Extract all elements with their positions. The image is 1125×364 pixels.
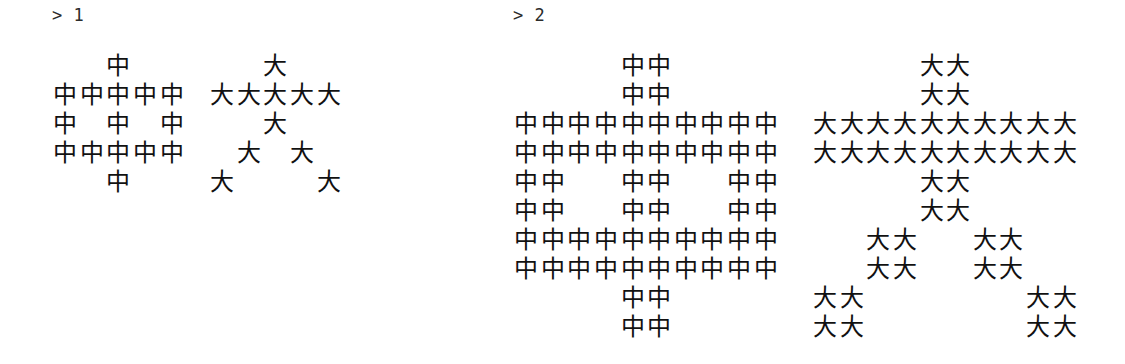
glyph-cell-filled: 大 bbox=[918, 81, 945, 110]
glyph-cell-filled: 大 bbox=[289, 81, 316, 110]
glyph-cell-filled: 大 bbox=[315, 81, 342, 110]
art-row: 中中中中中中中中中中 bbox=[513, 226, 779, 255]
glyph-cell-filled: 中 bbox=[752, 226, 779, 255]
glyph-cell-empty bbox=[236, 168, 263, 197]
glyph-cell-empty bbox=[839, 81, 866, 110]
glyph-cell-filled: 中 bbox=[619, 139, 646, 168]
art-row: 大大大大大大大大大大 bbox=[812, 139, 1078, 168]
figure-da-scale-1: 大 大大大大大 大 大 大 大 大 bbox=[209, 52, 342, 197]
glyph-cell-filled: 中 bbox=[646, 52, 673, 81]
prompt-line-1[interactable]: > 1 bbox=[52, 4, 342, 26]
glyph-cell-empty bbox=[972, 197, 999, 226]
glyph-cell-empty bbox=[566, 197, 593, 226]
glyph-cell-empty bbox=[839, 255, 866, 284]
glyph-cell-filled: 大 bbox=[865, 255, 892, 284]
glyph-cell-filled: 大 bbox=[918, 168, 945, 197]
terminal-output: > 1 中 中中中中中中 中 中中中中中中 中 大 大大大大大 大 大 大 大 … bbox=[0, 0, 1125, 364]
glyph-cell-filled: 大 bbox=[315, 168, 342, 197]
glyph-cell-empty bbox=[209, 139, 236, 168]
glyph-cell-filled: 大 bbox=[865, 110, 892, 139]
glyph-cell-filled: 中 bbox=[132, 81, 159, 110]
glyph-cell-empty bbox=[1051, 81, 1078, 110]
art-row: 大大 bbox=[812, 197, 1078, 226]
glyph-cell-empty bbox=[315, 52, 342, 81]
glyph-cell-filled: 中 bbox=[566, 226, 593, 255]
glyph-cell-empty bbox=[699, 284, 726, 313]
glyph-cell-empty bbox=[673, 284, 700, 313]
glyph-cell-empty bbox=[892, 168, 919, 197]
glyph-cell-filled: 中 bbox=[726, 110, 753, 139]
glyph-cell-empty bbox=[972, 313, 999, 342]
glyph-cell-filled: 中 bbox=[699, 226, 726, 255]
glyph-cell-empty bbox=[236, 110, 263, 139]
glyph-cell-filled: 中 bbox=[158, 110, 185, 139]
prompt-line-2[interactable]: > 2 bbox=[513, 4, 1078, 26]
art-row: 中 bbox=[52, 52, 185, 81]
glyph-cell-filled: 中 bbox=[619, 313, 646, 342]
art-row: 大 bbox=[209, 110, 342, 139]
glyph-cell-empty bbox=[918, 255, 945, 284]
glyph-cell-empty bbox=[699, 81, 726, 110]
glyph-cell-empty bbox=[812, 226, 839, 255]
glyph-cell-filled: 中 bbox=[540, 168, 567, 197]
glyph-cell-empty bbox=[1051, 52, 1078, 81]
glyph-cell-filled: 中 bbox=[52, 139, 79, 168]
glyph-cell-empty bbox=[1025, 81, 1052, 110]
glyph-cell-empty bbox=[540, 284, 567, 313]
glyph-cell-filled: 中 bbox=[752, 255, 779, 284]
glyph-cell-filled: 中 bbox=[513, 255, 540, 284]
glyph-cell-empty bbox=[52, 52, 79, 81]
art-row: 中 bbox=[52, 168, 185, 197]
glyph-cell-empty bbox=[972, 52, 999, 81]
glyph-cell-filled: 大 bbox=[998, 139, 1025, 168]
glyph-cell-empty bbox=[262, 139, 289, 168]
glyph-cell-filled: 中 bbox=[619, 81, 646, 110]
art-row: 中中 中中 中中 bbox=[513, 197, 779, 226]
glyph-cell-empty bbox=[209, 110, 236, 139]
glyph-cell-filled: 中 bbox=[105, 168, 132, 197]
glyph-cell-filled: 大 bbox=[812, 313, 839, 342]
glyph-cell-filled: 大 bbox=[865, 226, 892, 255]
glyph-cell-empty bbox=[132, 52, 159, 81]
glyph-cell-empty bbox=[726, 284, 753, 313]
glyph-cell-empty bbox=[132, 168, 159, 197]
art-row: 大大 bbox=[812, 52, 1078, 81]
glyph-cell-filled: 中 bbox=[540, 255, 567, 284]
glyph-cell-filled: 中 bbox=[79, 139, 106, 168]
glyph-cell-filled: 中 bbox=[752, 139, 779, 168]
glyph-cell-filled: 大 bbox=[812, 284, 839, 313]
glyph-cell-empty bbox=[812, 81, 839, 110]
glyph-cell-empty bbox=[673, 81, 700, 110]
art-row: 大大 大大 bbox=[812, 226, 1078, 255]
glyph-cell-filled: 中 bbox=[646, 313, 673, 342]
glyph-cell-filled: 大 bbox=[998, 226, 1025, 255]
glyph-cell-empty bbox=[593, 197, 620, 226]
repl-block-1: > 1 中 中中中中中中 中 中中中中中中 中 大 大大大大大 大 大 大 大 … bbox=[52, 0, 342, 197]
glyph-cell-filled: 大 bbox=[1051, 110, 1078, 139]
glyph-cell-empty bbox=[865, 197, 892, 226]
art-row: 中中中中中 bbox=[52, 139, 185, 168]
glyph-cell-filled: 大 bbox=[972, 255, 999, 284]
glyph-cell-filled: 中 bbox=[646, 284, 673, 313]
glyph-cell-filled: 中 bbox=[752, 197, 779, 226]
glyph-cell-empty bbox=[673, 313, 700, 342]
glyph-cell-filled: 大 bbox=[209, 168, 236, 197]
glyph-cell-empty bbox=[262, 168, 289, 197]
glyph-cell-filled: 大 bbox=[892, 139, 919, 168]
glyph-cell-filled: 中 bbox=[699, 110, 726, 139]
ascii-art-2: 中中 中中 中中中中中中中中中中中中中中中中中中中中中中 中中 中中中中 中中 … bbox=[513, 52, 1078, 342]
glyph-cell-empty bbox=[892, 52, 919, 81]
glyph-cell-filled: 大 bbox=[918, 139, 945, 168]
glyph-cell-filled: 大 bbox=[945, 139, 972, 168]
glyph-cell-filled: 中 bbox=[566, 255, 593, 284]
glyph-cell-filled: 大 bbox=[1025, 284, 1052, 313]
glyph-cell-empty bbox=[593, 284, 620, 313]
glyph-cell-empty bbox=[1051, 226, 1078, 255]
glyph-cell-empty bbox=[513, 313, 540, 342]
art-row: 大大 bbox=[812, 168, 1078, 197]
glyph-cell-empty bbox=[998, 81, 1025, 110]
glyph-cell-empty bbox=[158, 168, 185, 197]
glyph-cell-empty bbox=[540, 52, 567, 81]
glyph-cell-filled: 中 bbox=[105, 52, 132, 81]
glyph-cell-filled: 中 bbox=[646, 255, 673, 284]
